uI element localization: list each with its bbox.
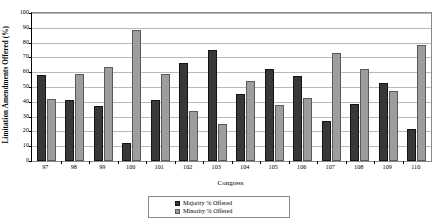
bar-97-majority <box>37 75 46 161</box>
bar-group <box>374 13 403 161</box>
bar-102-minority <box>189 111 198 161</box>
bar-group <box>118 13 147 161</box>
bar-100-majority <box>122 143 131 161</box>
bar-group <box>403 13 432 161</box>
bar-110-minority <box>417 45 426 161</box>
legend-entry: Majority % Offered <box>153 199 285 207</box>
bar-group <box>89 13 118 161</box>
bar-group <box>346 13 375 161</box>
bar-105-minority <box>275 105 284 161</box>
x-tick-label: 99 <box>99 164 105 170</box>
legend-swatch-icon <box>175 209 180 214</box>
bar-101-minority <box>161 74 170 161</box>
bar-109-minority <box>389 91 398 161</box>
legend-swatch-icon <box>175 201 180 206</box>
y-tick-label: 90 <box>23 24 29 30</box>
bar-99-minority <box>104 67 113 161</box>
bars-layer <box>32 13 431 161</box>
bar-109-majority <box>379 83 388 161</box>
x-tick-label: 109 <box>383 164 392 170</box>
bar-group <box>289 13 318 161</box>
bar-108-minority <box>360 69 369 161</box>
bar-103-minority <box>218 124 227 161</box>
y-tick-label: 20 <box>23 127 29 133</box>
bar-107-minority <box>332 53 341 161</box>
x-tick-label: 98 <box>71 164 77 170</box>
x-tick-label: 100 <box>126 164 135 170</box>
bar-group <box>61 13 90 161</box>
x-tick-label: 101 <box>155 164 164 170</box>
bar-group <box>203 13 232 161</box>
y-tick-label: 80 <box>23 38 29 44</box>
x-tick-label: 102 <box>183 164 192 170</box>
bar-105-majority <box>265 69 274 161</box>
x-tick-label: 105 <box>269 164 278 170</box>
bar-97-minority <box>47 99 56 161</box>
x-tick-label: 110 <box>411 164 420 170</box>
bar-106-minority <box>303 98 312 161</box>
legend-label: Majority % Offered <box>183 200 232 206</box>
bar-chart-figure: Limitation Amendments Offered (%) 010203… <box>0 0 437 222</box>
y-tick-label: 50 <box>23 83 29 89</box>
x-tick-label: 106 <box>297 164 306 170</box>
bar-98-majority <box>65 100 74 161</box>
bar-group <box>317 13 346 161</box>
plot-area <box>31 12 432 162</box>
y-tick-mark <box>29 161 32 162</box>
bar-106-majority <box>293 76 302 161</box>
legend-entry: Minority % Offered <box>153 207 285 215</box>
bar-group <box>175 13 204 161</box>
x-tick-label: 103 <box>212 164 221 170</box>
bar-100-minority <box>132 30 141 161</box>
y-axis-title-text: Limitation Amendments Offered (%) <box>3 26 10 144</box>
bar-104-majority <box>236 94 245 161</box>
bar-101-majority <box>151 100 160 161</box>
bar-group <box>260 13 289 161</box>
y-tick-label: 40 <box>23 98 29 104</box>
bar-group <box>232 13 261 161</box>
bar-group <box>32 13 61 161</box>
bar-107-majority <box>322 121 331 161</box>
legend-label: Minority % Offered <box>183 208 232 214</box>
bar-102-majority <box>179 63 188 161</box>
y-axis-title: Limitation Amendments Offered (%) <box>0 0 14 170</box>
y-tick-label: 0 <box>26 157 29 163</box>
y-tick-label: 70 <box>23 53 29 59</box>
bar-98-minority <box>75 74 84 161</box>
x-tick-label: 97 <box>42 164 48 170</box>
bar-110-majority <box>407 129 416 161</box>
x-tick-label: 108 <box>354 164 363 170</box>
bar-104-minority <box>246 81 255 161</box>
y-tick-label: 100 <box>20 9 29 15</box>
chart-legend: Majority % OfferedMinority % Offered <box>148 196 290 218</box>
bar-99-majority <box>94 106 103 161</box>
y-axis-tick-labels: 0102030405060708090100 <box>14 8 30 164</box>
bar-group <box>146 13 175 161</box>
bar-103-majority <box>208 50 217 161</box>
x-tick-label: 104 <box>240 164 249 170</box>
y-tick-label: 60 <box>23 68 29 74</box>
x-tick-label: 107 <box>326 164 335 170</box>
x-axis-title: Congress <box>31 180 430 187</box>
y-tick-label: 10 <box>23 142 29 148</box>
y-tick-label: 30 <box>23 112 29 118</box>
bar-108-majority <box>350 104 359 161</box>
